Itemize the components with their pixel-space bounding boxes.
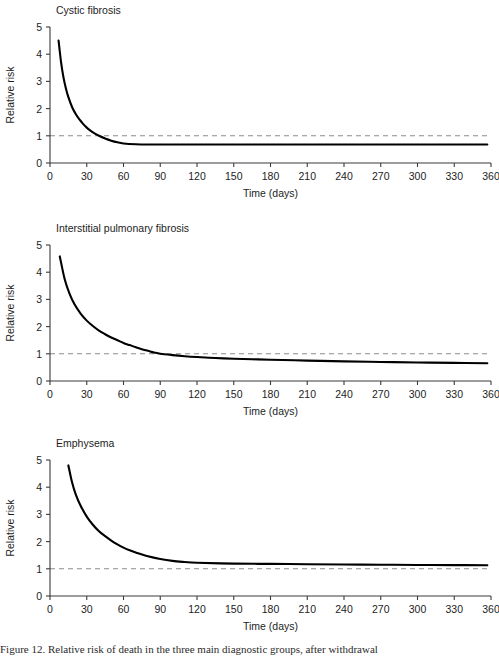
x-tick-label: 270: [372, 603, 390, 615]
chart-title: Emphysema: [56, 437, 115, 449]
x-tick-label: 360: [482, 388, 499, 400]
x-tick-label: 180: [262, 603, 280, 615]
x-tick-label: 240: [335, 603, 353, 615]
y-tick-label: 3: [36, 508, 42, 520]
y-tick-label: 0: [36, 375, 42, 387]
chart-panel-interstitial-pulmonary-fibrosis: Interstitial pulmonary fibrosis012345030…: [0, 218, 499, 433]
x-tick-label: 180: [262, 388, 280, 400]
x-tick-label: 90: [154, 603, 166, 615]
x-tick-label: 210: [298, 388, 316, 400]
y-tick-label: 5: [36, 21, 42, 33]
x-tick-label: 330: [445, 388, 463, 400]
x-tick-label: 360: [482, 170, 499, 182]
x-tick-label: 60: [118, 603, 130, 615]
x-tick-label: 150: [225, 603, 243, 615]
x-tick-label: 30: [81, 388, 93, 400]
x-axis-title: Time (days): [243, 187, 298, 199]
y-axis-title: Relative risk: [4, 284, 16, 342]
x-tick-label: 240: [335, 388, 353, 400]
y-tick-label: 2: [36, 321, 42, 333]
y-tick-label: 2: [36, 536, 42, 548]
x-tick-label: 120: [188, 170, 206, 182]
x-tick-label: 270: [372, 170, 390, 182]
x-tick-label: 150: [225, 170, 243, 182]
y-tick-label: 4: [36, 481, 42, 493]
chart-panel-emphysema: Emphysema0123450306090120150180210240270…: [0, 433, 499, 648]
x-tick-label: 360: [482, 603, 499, 615]
y-tick-label: 1: [36, 130, 42, 142]
x-tick-label: 60: [118, 388, 130, 400]
x-tick-label: 240: [335, 170, 353, 182]
y-tick-label: 0: [36, 157, 42, 169]
x-tick-label: 0: [47, 170, 53, 182]
x-tick-label: 30: [81, 603, 93, 615]
y-tick-label: 1: [36, 563, 42, 575]
y-tick-label: 3: [36, 293, 42, 305]
x-tick-label: 300: [409, 603, 427, 615]
relative-risk-curve: [60, 256, 488, 363]
y-tick-label: 1: [36, 348, 42, 360]
x-tick-label: 210: [298, 603, 316, 615]
x-tick-label: 0: [47, 388, 53, 400]
y-axis-title: Relative risk: [4, 499, 16, 557]
x-tick-label: 60: [118, 170, 130, 182]
x-tick-label: 270: [372, 388, 390, 400]
y-tick-label: 4: [36, 48, 42, 60]
figure-caption: Figure 12. Relative risk of death in the…: [0, 643, 499, 656]
chart-title: Interstitial pulmonary fibrosis: [56, 222, 189, 234]
x-axis-title: Time (days): [243, 620, 298, 632]
y-tick-label: 5: [36, 454, 42, 466]
chart-svg: Emphysema0123450306090120150180210240270…: [0, 433, 499, 648]
relative-risk-curve: [68, 465, 487, 565]
x-tick-label: 300: [409, 388, 427, 400]
x-tick-label: 90: [154, 388, 166, 400]
chart-title: Cystic fibrosis: [56, 4, 121, 16]
x-tick-label: 330: [445, 603, 463, 615]
x-tick-label: 120: [188, 603, 206, 615]
y-tick-label: 2: [36, 103, 42, 115]
x-tick-label: 330: [445, 170, 463, 182]
y-tick-label: 0: [36, 590, 42, 602]
x-tick-label: 300: [409, 170, 427, 182]
y-tick-label: 5: [36, 239, 42, 251]
x-axis-title: Time (days): [243, 405, 298, 417]
chart-svg: Cystic fibrosis0123450306090120150180210…: [0, 0, 499, 215]
x-tick-label: 210: [298, 170, 316, 182]
chart-svg: Interstitial pulmonary fibrosis012345030…: [0, 218, 499, 433]
x-tick-label: 120: [188, 388, 206, 400]
x-tick-label: 90: [154, 170, 166, 182]
x-tick-label: 0: [47, 603, 53, 615]
x-tick-label: 30: [81, 170, 93, 182]
relative-risk-curve: [59, 41, 488, 145]
y-tick-label: 4: [36, 266, 42, 278]
y-axis-title: Relative risk: [4, 66, 16, 124]
y-tick-label: 3: [36, 75, 42, 87]
x-tick-label: 150: [225, 388, 243, 400]
chart-panel-cystic-fibrosis: Cystic fibrosis0123450306090120150180210…: [0, 0, 499, 215]
x-tick-label: 180: [262, 170, 280, 182]
